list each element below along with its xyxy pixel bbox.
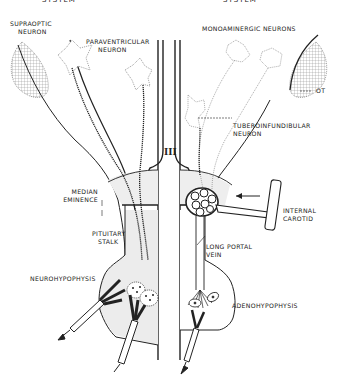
optic-tract-left [11, 42, 48, 98]
arrow-icon [236, 193, 260, 199]
label-median-line2: EMINENCE [56, 196, 98, 204]
label-median-eminence: MEDIAN EMINENCE [56, 188, 98, 204]
tuberoinfundibular-neuron [185, 95, 205, 175]
label-pituitary-line1: PITUITARY [92, 230, 126, 238]
right-system-header: SYSTEM [223, 0, 257, 4]
label-ot: OT [316, 87, 325, 95]
label-internal-line1: INTERNAL [283, 207, 316, 215]
label-tuberoinfundibular-line1: TUBEROINFUNDIBULAR [233, 122, 311, 130]
label-third-ventricle: III [164, 147, 177, 157]
hypothalamic-pituitary-diagram: SYSTEM SYSTEM SUPRAOPTIC NEURON PARAVENT… [0, 0, 338, 376]
label-adenohypophysis: ADENOHYPOPHYSIS [232, 302, 298, 310]
left-system-header: SYSTEM [42, 0, 76, 4]
label-paraventricular: PARAVENTRICULAR NEURON [86, 38, 150, 54]
label-long-portal-vein: LONG PORTAL VEIN [206, 243, 252, 259]
label-pituitary-stalk: PITUITARY STALK [92, 230, 126, 246]
adenohypophysis-shape [180, 210, 235, 330]
label-tuberoinfundibular-line2: NEURON [233, 130, 311, 138]
label-monoaminergic: MONOAMINERGIC NEURONS [202, 25, 296, 33]
label-long-portal-line2: VEIN [206, 251, 252, 259]
label-paraventricular-line2: NEURON [86, 46, 150, 54]
label-median-line1: MEDIAN [56, 188, 98, 196]
label-pituitary-line2: STALK [92, 238, 126, 246]
label-supraoptic-line2: NEURON [10, 28, 52, 36]
monoaminergic-neurons [199, 40, 282, 195]
label-supraoptic: SUPRAOPTIC NEURON [10, 20, 52, 36]
label-internal-carotid: INTERNAL CAROTID [283, 207, 316, 223]
label-long-portal-line1: LONG PORTAL [206, 243, 252, 251]
label-supraoptic-line1: SUPRAOPTIC [10, 20, 52, 28]
capillary-plexus [186, 188, 218, 216]
diagram-artwork [0, 0, 338, 376]
label-tuberoinfundibular: TUBEROINFUNDIBULAR NEURON [233, 122, 311, 138]
label-paraventricular-line1: PARAVENTRICULAR [86, 38, 150, 46]
label-neurohypophysis: NEUROHYPOPHYSIS [30, 275, 96, 283]
label-internal-line2: CAROTID [283, 215, 316, 223]
median-eminence [108, 170, 158, 205]
